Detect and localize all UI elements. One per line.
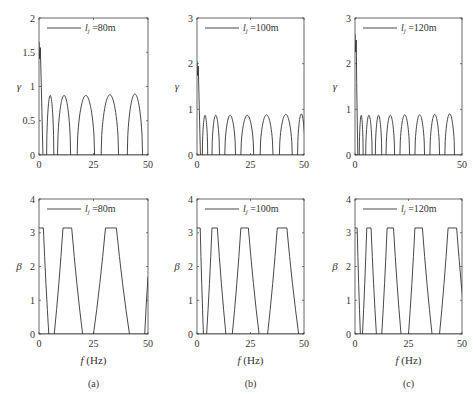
y-axis-label: γ [175,80,180,92]
y-tick-label: 3 [346,13,351,24]
data-series [193,228,304,334]
legend-label: lj =120m [401,203,437,216]
y-tick-label: 0 [188,150,193,161]
legend-label: lj =100m [243,22,279,35]
chart-panel-c-top: 0123050γlj =120m [333,13,467,171]
data-series [197,61,305,155]
y-axis-label: γ [17,80,22,92]
x-tick-label: 0 [195,159,200,170]
y-axis-label: β [173,260,180,272]
x-axis-label: f (Hz) [238,354,264,367]
axes-frame [39,199,148,334]
y-axis-label: γ [333,80,338,92]
legend-label: lj =80m [85,22,116,35]
y-tick-label: 1 [30,295,35,306]
x-tick-label: 25 [89,159,99,170]
x-tick-label: 50 [299,159,309,170]
x-axis-label: f (Hz) [81,354,107,367]
y-tick-label: 1.5 [23,47,36,58]
legend-label: lj =80m [85,203,116,216]
x-tick-label: 25 [246,338,256,349]
y-tick-label: 4 [346,194,351,205]
x-tick-label: 25 [89,338,99,349]
y-tick-label: 3 [346,227,351,238]
chart-panel-a-top: 00.511.5202550γlj =80m [17,13,153,171]
y-tick-label: 0 [346,329,351,340]
x-tick-label: 0 [353,159,358,170]
x-tick-label: 0 [37,159,42,170]
axes-frame [355,199,462,334]
y-tick-label: 2 [30,261,35,272]
chart-panel-b-top: 012302550γlj =100m [175,13,309,171]
y-tick-label: 3 [188,227,193,238]
chart-panel-b-bottom: 0123402550βf (Hz)lj =100m [173,194,309,368]
axes-frame [197,199,304,334]
x-tick-label: 50 [457,159,467,170]
data-series [355,34,462,155]
x-tick-label: 50 [143,338,153,349]
y-tick-label: 4 [30,194,35,205]
chart-panel-c-bottom: 0123402550βf (Hz)lj =120m [331,194,467,368]
figure-canvas: 00.511.5202550γlj =80m0123402550βf (Hz)l… [0,0,473,394]
x-tick-label: 50 [143,159,153,170]
subfigure-caption: (b) [245,378,257,390]
y-tick-label: 1 [346,295,351,306]
y-tick-label: 1 [188,104,193,115]
x-tick-label: 0 [353,338,358,349]
subfigure-caption: (c) [403,378,414,390]
y-tick-label: 2 [188,58,193,69]
y-tick-label: 0 [188,329,193,340]
x-axis-label: f (Hz) [396,354,422,367]
y-tick-label: 0.5 [23,115,36,126]
legend-label: lj =120m [401,22,437,35]
x-tick-label: 50 [299,338,309,349]
x-tick-label: 0 [195,338,200,349]
y-tick-label: 0 [30,150,35,161]
data-series [39,42,148,155]
y-tick-label: 3 [188,13,193,24]
y-axis-label: β [331,260,338,272]
y-tick-label: 1 [346,104,351,115]
y-tick-label: 4 [188,194,193,205]
x-tick-label: 25 [404,338,414,349]
y-tick-label: 2 [30,13,35,24]
y-tick-label: 1 [30,81,35,92]
legend-label: lj =100m [243,203,279,216]
y-tick-label: 2 [188,261,193,272]
y-tick-label: 0 [30,329,35,340]
data-series [351,228,467,334]
chart-panel-a-bottom: 0123402550βf (Hz)lj =80m [15,194,153,368]
y-tick-label: 1 [188,295,193,306]
x-tick-label: 50 [457,338,467,349]
y-tick-label: 2 [346,261,351,272]
y-tick-label: 0 [346,150,351,161]
x-tick-label: 25 [246,159,256,170]
data-series [35,228,148,334]
y-tick-label: 3 [30,227,35,238]
y-axis-label: β [15,260,22,272]
x-tick-label: 0 [37,338,42,349]
subfigure-caption: (a) [88,378,99,390]
y-tick-label: 2 [346,58,351,69]
